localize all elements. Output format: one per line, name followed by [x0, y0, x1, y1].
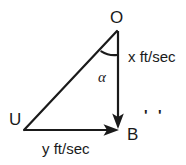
diagram-canvas: O U B α x ft/sec y ft/sec ' ' [0, 0, 186, 165]
vertical-rate-label: x ft/sec [128, 49, 176, 64]
angle-arc-alpha [101, 51, 117, 55]
prime-mark-one: ' [144, 107, 148, 122]
prime-mark-two: ' [158, 107, 162, 122]
vertex-label-o: O [110, 9, 123, 26]
triangle-figure-svg [0, 0, 186, 165]
angle-label-alpha: α [98, 70, 106, 85]
horizontal-rate-label: y ft/sec [42, 141, 90, 156]
vertex-label-u: U [9, 111, 21, 128]
vertex-label-b: B [127, 126, 138, 143]
